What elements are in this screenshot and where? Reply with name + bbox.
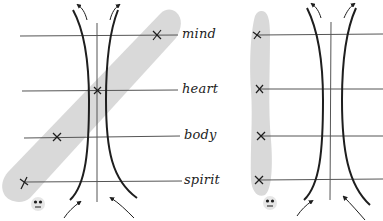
arrow-in-right [344, 197, 365, 220]
right-flow-curve [342, 8, 370, 205]
level-line-heart [22, 90, 178, 91]
level-line-spirit [260, 179, 383, 180]
arrow-in-left [64, 202, 80, 218]
face-icon [31, 197, 45, 211]
center-axis [330, 22, 331, 200]
label-heart: heart [182, 82, 218, 95]
arrow-out-left [78, 5, 87, 20]
label-body: body [184, 128, 217, 141]
left-panel [2, 5, 182, 218]
arrow-out-left [312, 4, 321, 18]
face-icon [263, 196, 277, 210]
left-flow-curve [304, 8, 323, 200]
vertical-band [250, 11, 272, 196]
level-line-mind [258, 34, 383, 35]
arrow-in-right [111, 198, 134, 218]
level-line-spirit [25, 181, 182, 182]
label-spirit: spirit [184, 173, 220, 186]
label-mind: mind [182, 27, 216, 40]
arrow-in-left [297, 201, 312, 216]
right-panel [250, 4, 383, 220]
